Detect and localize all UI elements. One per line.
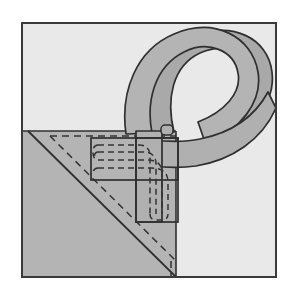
keeper-nub	[161, 125, 173, 135]
figure-root: Strap loop stitched to triangular corner…	[0, 0, 285, 286]
strap-loop-illustration	[0, 0, 285, 286]
frame-contents	[22, 23, 276, 277]
strap-keeper	[161, 125, 173, 135]
